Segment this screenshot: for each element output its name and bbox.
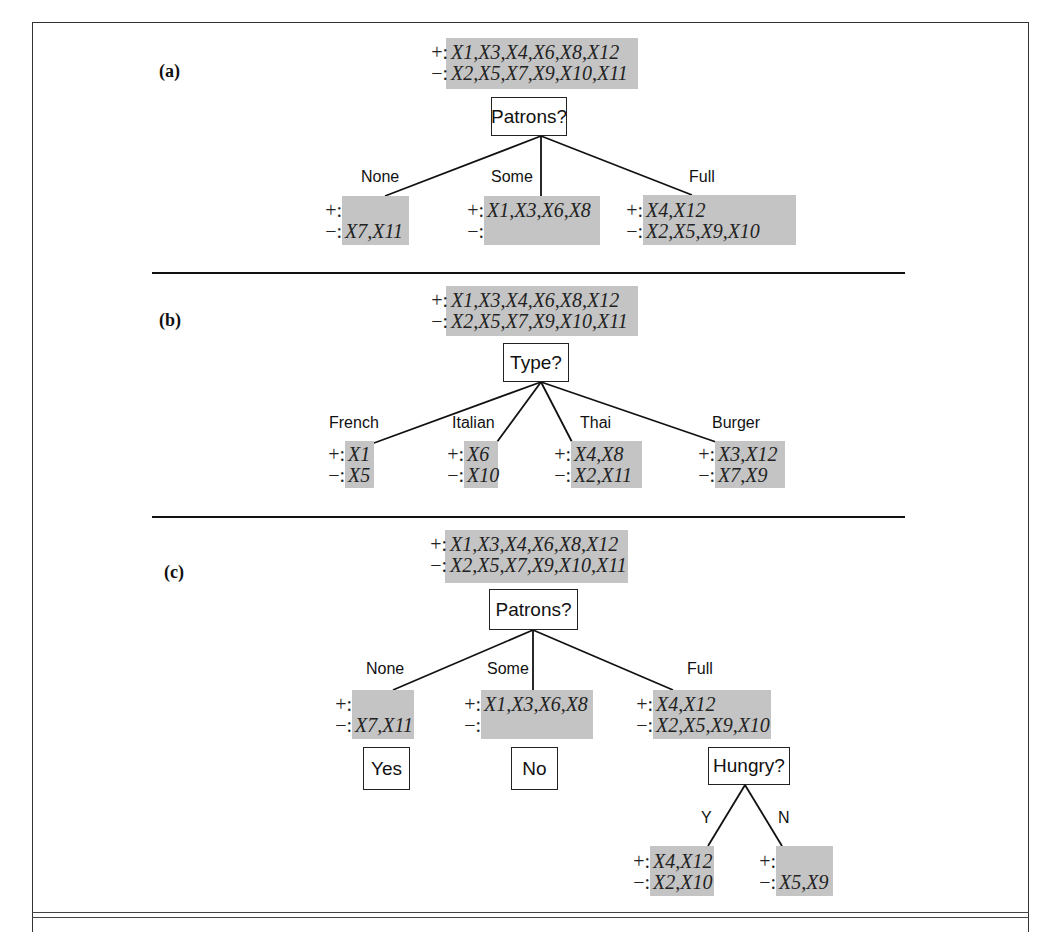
negative-sign: −: xyxy=(319,465,348,486)
negative-examples: X10 xyxy=(467,465,499,486)
leaf-example-set-italian-b: +:X6 −:X10 xyxy=(438,444,499,486)
branch-label-n-c: N xyxy=(778,809,790,827)
positive-sign: +: xyxy=(319,444,348,465)
negative-examples: X7,X11 xyxy=(345,221,403,242)
negative-sign: −: xyxy=(750,872,779,893)
panel-label-a: (a) xyxy=(159,61,180,82)
leaf-example-set-none-a: +: −:X7,X11 xyxy=(316,200,403,242)
leaf-example-set-some-a: +:X1,X3,X6,X8 −: xyxy=(458,200,591,242)
negative-examples: X2,X5,X7,X9,X10,X11 xyxy=(451,311,628,332)
positive-examples: X1,X3,X6,X8 xyxy=(487,200,591,221)
positive-sign: +: xyxy=(624,851,653,872)
negative-sign: −: xyxy=(627,715,656,736)
branch-label-italian-b: Italian xyxy=(452,414,495,432)
frame-border-top xyxy=(32,22,1029,23)
leaf-example-set-french-b: +:X1 −:X5 xyxy=(319,444,370,486)
negative-sign: −: xyxy=(422,63,451,84)
tree-edges xyxy=(0,0,1060,932)
positive-examples: X4,X12 xyxy=(656,694,715,715)
negative-sign: −: xyxy=(422,311,451,332)
negative-sign: −: xyxy=(545,465,574,486)
positive-sign: +: xyxy=(326,694,355,715)
branch-label-full-c: Full xyxy=(687,660,713,678)
root-example-set-a: +:X1,X3,X4,X6,X8,X12 −:X2,X5,X7,X9,X10,X… xyxy=(422,42,628,84)
leaf-example-set-thai-b: +:X4,X8 −:X2,X11 xyxy=(545,444,632,486)
negative-sign: −: xyxy=(624,872,653,893)
branch-label-some-a: Some xyxy=(491,168,533,186)
negative-examples: X2,X5,X9,X10 xyxy=(646,221,760,242)
positive-examples: X1 xyxy=(348,444,370,465)
branch-label-some-c: Some xyxy=(487,660,529,678)
positive-sign: +: xyxy=(617,200,646,221)
positive-sign: +: xyxy=(316,200,345,221)
root-example-set-c: +:X1,X3,X4,X6,X8,X12 −:X2,X5,X7,X9,X10,X… xyxy=(421,534,627,576)
negative-examples: X2,X5,X9,X10 xyxy=(656,715,770,736)
positive-examples: X4,X12 xyxy=(653,851,712,872)
negative-examples: X5,X9 xyxy=(779,872,828,893)
root-example-set-b: +:X1,X3,X4,X6,X8,X12 −:X2,X5,X7,X9,X10,X… xyxy=(422,290,628,332)
panel-label-b: (b) xyxy=(159,310,181,331)
leaf-example-set-some-c: +:X1,X3,X6,X8 −: xyxy=(455,694,588,736)
panel-label-c: (c) xyxy=(164,562,184,583)
decision-node-yes: Yes xyxy=(363,747,410,790)
frame-border-bottom-double xyxy=(32,917,1029,918)
negative-sign: −: xyxy=(438,465,467,486)
leaf-example-set-full-a: +:X4,X12 −:X2,X5,X9,X10 xyxy=(617,200,760,242)
negative-sign: −: xyxy=(617,221,646,242)
branch-label-none-a: None xyxy=(361,168,399,186)
negative-examples: X2,X11 xyxy=(574,465,632,486)
figure: (a) +:X1,X3,X4,X6,X8,X12 −:X2,X5,X7,X9,X… xyxy=(0,0,1060,932)
panel-divider-bc xyxy=(152,516,905,518)
positive-examples: X4,X8 xyxy=(574,444,623,465)
negative-sign: −: xyxy=(326,715,355,736)
positive-sign: +: xyxy=(422,290,451,311)
attribute-node-patrons-a: Patrons? xyxy=(491,97,567,136)
negative-sign: −: xyxy=(458,221,487,242)
branch-label-y-c: Y xyxy=(701,809,712,827)
positive-examples: X6 xyxy=(467,444,489,465)
negative-examples: X7,X11 xyxy=(355,715,413,736)
negative-examples: X7,X9 xyxy=(718,465,767,486)
attribute-node-hungry-c: Hungry? xyxy=(708,747,790,785)
branch-label-french-b: French xyxy=(329,414,379,432)
positive-sign: +: xyxy=(689,444,718,465)
negative-sign: −: xyxy=(316,221,345,242)
negative-examples: X2,X5,X7,X9,X10,X11 xyxy=(451,63,628,84)
negative-sign: −: xyxy=(689,465,718,486)
leaf-example-set-burger-b: +:X3,X12 −:X7,X9 xyxy=(689,444,777,486)
positive-examples: X3,X12 xyxy=(718,444,777,465)
positive-examples: X1,X3,X4,X6,X8,X12 xyxy=(451,290,619,311)
positive-examples: X1,X3,X4,X6,X8,X12 xyxy=(451,42,619,63)
positive-sign: +: xyxy=(750,851,779,872)
decision-node-no: No xyxy=(511,747,558,790)
frame-border-left xyxy=(32,22,33,932)
positive-sign: +: xyxy=(455,694,484,715)
negative-sign: −: xyxy=(421,555,450,576)
frame-border-bottom xyxy=(32,912,1029,913)
negative-sign: −: xyxy=(455,715,484,736)
frame-border-right xyxy=(1028,22,1029,932)
positive-sign: +: xyxy=(421,534,450,555)
leaf-example-set-hungry-n: +: −:X5,X9 xyxy=(750,851,828,893)
branch-label-full-a: Full xyxy=(689,168,715,186)
positive-sign: +: xyxy=(458,200,487,221)
negative-examples: X5 xyxy=(348,465,370,486)
attribute-node-type-b: Type? xyxy=(503,343,569,382)
positive-sign: +: xyxy=(438,444,467,465)
leaf-example-set-hungry-y: +:X4,X12 −:X2,X10 xyxy=(624,851,712,893)
negative-examples: X2,X10 xyxy=(653,872,712,893)
positive-examples: X1,X3,X4,X6,X8,X12 xyxy=(450,534,618,555)
attribute-node-patrons-c: Patrons? xyxy=(489,589,578,630)
branch-label-burger-b: Burger xyxy=(712,414,760,432)
leaf-example-set-none-c: +: −:X7,X11 xyxy=(326,694,413,736)
branch-label-none-c: None xyxy=(366,660,404,678)
positive-sign: +: xyxy=(627,694,656,715)
positive-examples: X4,X12 xyxy=(646,200,705,221)
panel-divider-ab xyxy=(152,272,905,274)
negative-examples: X2,X5,X7,X9,X10,X11 xyxy=(450,555,627,576)
positive-sign: +: xyxy=(545,444,574,465)
positive-sign: +: xyxy=(422,42,451,63)
leaf-example-set-full-c: +:X4,X12 −:X2,X5,X9,X10 xyxy=(627,694,770,736)
positive-examples: X1,X3,X6,X8 xyxy=(484,694,588,715)
branch-label-thai-b: Thai xyxy=(580,414,611,432)
